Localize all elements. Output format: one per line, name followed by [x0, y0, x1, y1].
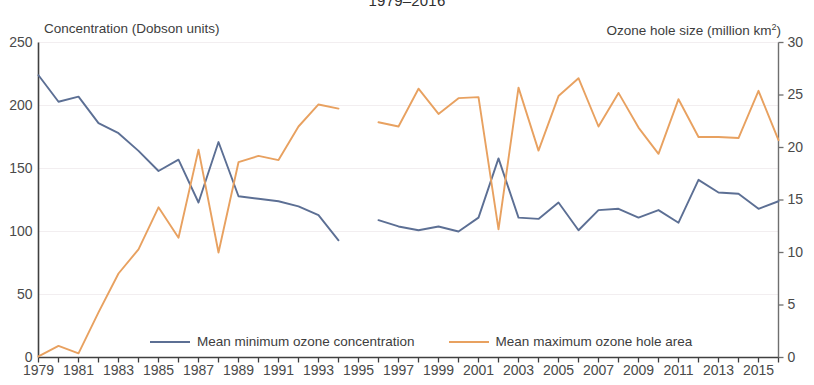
legend-label: Mean minimum ozone concentration	[197, 334, 415, 349]
series-line-2	[379, 78, 779, 229]
gridlines	[39, 43, 779, 295]
legend-entry-2[interactable]: Mean maximum ozone hole area	[449, 334, 693, 349]
axis-lines	[39, 43, 779, 358]
legend-line-swatch	[150, 341, 190, 343]
legend-label: Mean maximum ozone hole area	[496, 334, 693, 349]
legend-line-swatch	[449, 341, 489, 343]
series-line-2	[39, 104, 339, 356]
chart-legend: Mean minimum ozone concentrationMean max…	[150, 334, 692, 349]
legend-entry-1[interactable]: Mean minimum ozone concentration	[150, 334, 415, 349]
ozone-trend-chart: 1979–2016 Concentration (Dobson units) O…	[0, 0, 814, 385]
series-line-1	[39, 75, 339, 240]
series-line-1	[379, 158, 779, 231]
axis-ticks	[39, 43, 784, 363]
plot-area	[0, 0, 814, 385]
data-series	[39, 75, 779, 356]
